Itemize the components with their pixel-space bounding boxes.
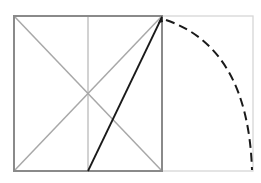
- construction-radius-line: [88, 17, 162, 171]
- extension-rectangle: [162, 16, 253, 171]
- golden-rectangle-diagram: [0, 0, 261, 183]
- dashed-arc: [166, 20, 252, 170]
